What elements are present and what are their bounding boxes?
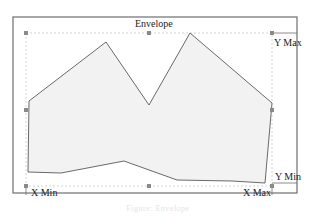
envelope-polygon[interactable] [28, 33, 272, 183]
y-min-label: Y Min [275, 172, 301, 182]
handle-top-right[interactable] [270, 31, 274, 35]
handle-bottom-center[interactable] [147, 184, 151, 188]
y-max-label: Y Max [274, 38, 302, 48]
handle-middle-right[interactable] [270, 108, 274, 112]
x-max-label: X Max [243, 188, 271, 198]
envelope-title: Envelope [135, 19, 173, 29]
handle-middle-left[interactable] [24, 108, 28, 112]
figure-caption: Figure: Envelope [0, 205, 316, 213]
handle-top-center[interactable] [147, 31, 151, 35]
handle-bottom-left[interactable] [24, 184, 28, 188]
handle-top-left[interactable] [24, 31, 28, 35]
x-min-label: X Min [31, 188, 57, 198]
envelope-diagram: Envelope Y Max Y Min X Min X Max Figure:… [0, 0, 316, 218]
diagram-canvas [0, 0, 316, 218]
